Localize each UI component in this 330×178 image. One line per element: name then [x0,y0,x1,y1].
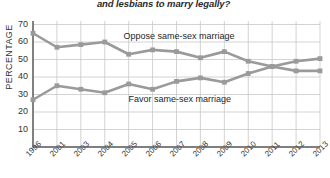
data-point [270,64,275,69]
data-point [102,90,107,95]
data-point [174,79,179,84]
series-label-favor: Favor same-sex marriage [129,94,232,104]
data-point [78,42,83,47]
data-point [318,56,323,61]
data-point [222,80,227,85]
data-point [294,68,299,73]
data-point [31,31,36,36]
data-point [126,82,131,87]
data-point [222,49,227,54]
data-point [198,55,203,60]
data-point [150,87,155,92]
data-point [55,45,60,50]
data-point [318,68,323,73]
data-point [246,59,251,64]
data-point [55,83,60,88]
data-point [174,49,179,54]
data-point [150,47,155,52]
data-point [102,40,107,45]
data-point [78,87,83,92]
data-point [198,75,203,80]
data-point [31,97,36,102]
series-label-oppose: Oppose same-sex marriage [124,31,235,41]
data-point [126,52,131,57]
data-point [246,71,251,76]
data-point [294,59,299,64]
